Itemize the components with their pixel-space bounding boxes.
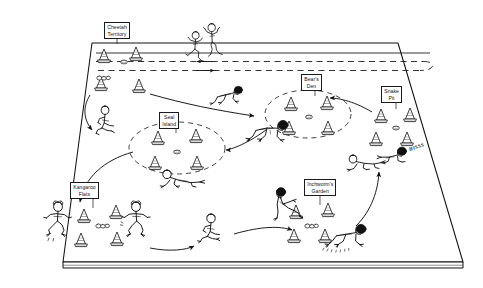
- diagram-canvas: Cheetah Territory Bear's Den Snake Pit S…: [0, 0, 483, 288]
- station-label-seal-island[interactable]: Seal Island: [159, 112, 179, 129]
- field-illustration: [0, 0, 483, 288]
- station-label-cheetah-territory[interactable]: Cheetah Territory: [104, 22, 130, 39]
- station-label-snake-pit[interactable]: Snake Pit: [381, 86, 402, 103]
- station-label-inchworms-garden[interactable]: Inchworm's Garden: [304, 179, 336, 196]
- station-label-bears-den[interactable]: Bear's Den: [301, 74, 322, 91]
- station-label-kangaroo-flats[interactable]: Kangaroo Flats: [70, 182, 99, 199]
